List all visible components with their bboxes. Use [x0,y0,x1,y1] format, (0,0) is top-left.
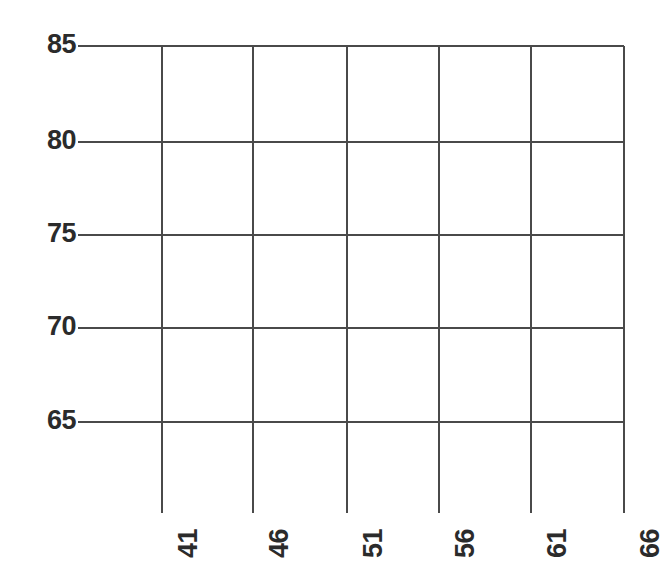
y-tick-label: 85 [0,31,76,58]
chart-canvas: 8580757065 414651566166 [0,0,668,570]
y-tick-label: 75 [0,220,76,247]
y-tick-label: 65 [0,407,76,434]
vertical-gridlines [162,46,624,513]
y-tick-label: 70 [0,313,76,340]
x-tick-label: 51 [360,529,387,558]
horizontal-gridlines [78,46,624,422]
x-tick-label: 61 [544,529,571,558]
grid-svg [0,0,668,570]
x-tick-label: 41 [175,529,202,558]
x-tick-label: 46 [266,529,293,558]
y-tick-label: 80 [0,127,76,154]
x-tick-label: 66 [637,529,664,558]
x-tick-label: 56 [452,529,479,558]
